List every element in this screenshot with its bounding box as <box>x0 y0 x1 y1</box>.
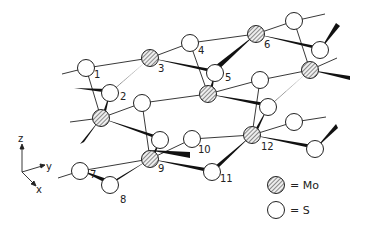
s-atom-7 <box>72 163 89 180</box>
mo-atom-9 <box>142 151 159 168</box>
label-1: 1 <box>94 69 100 80</box>
mo-atom-3 <box>142 50 159 67</box>
label-11: 11 <box>220 173 233 184</box>
mos2-structure-diagram: 1 2 3 4 5 6 7 8 9 10 11 12 z y x = Mo = … <box>0 0 368 231</box>
mo-atom-6 <box>248 26 265 43</box>
coordinate-axes <box>20 144 45 186</box>
label-3: 3 <box>158 63 164 74</box>
s-atom-8 <box>102 177 119 194</box>
label-7: 7 <box>90 169 96 180</box>
label-8: 8 <box>120 194 126 205</box>
legend: = Mo = S <box>268 177 320 219</box>
axis-x-label: x <box>36 184 42 195</box>
label-9: 9 <box>158 163 164 174</box>
sulfur-atoms <box>72 13 329 194</box>
s-atom-2 <box>102 85 119 102</box>
legend-s-label: = S <box>290 204 310 217</box>
s-atom-5 <box>207 65 224 82</box>
legend-s-icon <box>268 202 285 219</box>
label-6: 6 <box>264 39 270 50</box>
s-atom-11 <box>204 164 221 181</box>
label-12: 12 <box>261 141 274 152</box>
legend-mo-icon <box>268 177 285 194</box>
label-2: 2 <box>120 91 126 102</box>
axis-z-label: z <box>18 133 23 144</box>
s-atom-4 <box>182 35 199 52</box>
label-5: 5 <box>225 72 231 83</box>
s-atom-1 <box>78 60 95 77</box>
legend-mo-label: = Mo <box>290 179 319 192</box>
wedge-bonds <box>74 23 350 185</box>
label-4: 4 <box>198 45 204 56</box>
label-10: 10 <box>198 144 211 155</box>
axis-y-label: y <box>46 161 52 172</box>
mo-atom-12 <box>244 127 261 144</box>
